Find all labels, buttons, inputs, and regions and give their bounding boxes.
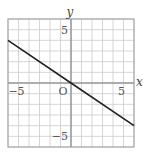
- coordinate-plane: yxO−555−5: [0, 0, 146, 153]
- y-tick-neg5: −5: [52, 130, 68, 143]
- y-tick-5: 5: [61, 24, 68, 37]
- y-axis-label: y: [66, 5, 74, 19]
- origin-label: O: [58, 85, 67, 98]
- x-tick-5: 5: [118, 85, 125, 98]
- x-tick-neg5: −5: [8, 85, 24, 98]
- x-axis-label: x: [136, 75, 143, 89]
